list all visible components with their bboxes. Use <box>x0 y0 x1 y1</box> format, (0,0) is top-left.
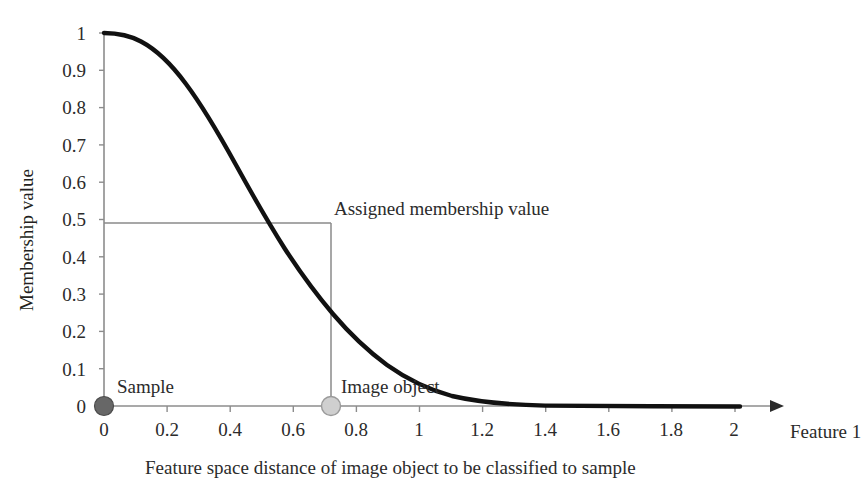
x-tick-label-1-2: 1.2 <box>452 420 512 439</box>
y-tick-label-0-9: 0.9 <box>38 61 86 80</box>
x-tick-label-0: 0 <box>74 420 134 439</box>
y-tick-label-0-4: 0.4 <box>38 248 86 267</box>
y-tick-label-0-8: 0.8 <box>38 98 86 117</box>
annotation-sample: Sample <box>117 377 174 396</box>
x-tick-label-1-8: 1.8 <box>641 420 701 439</box>
x-tick-label-2: 2 <box>704 420 764 439</box>
x-tick-label-0-2: 0.2 <box>137 420 197 439</box>
x-tick-label-0-8: 0.8 <box>326 420 386 439</box>
marker-sample <box>95 397 114 416</box>
x-axis-title: Feature 1 <box>790 422 861 441</box>
y-tick-label-0-7: 0.7 <box>38 136 86 155</box>
y-tick-label-0-3: 0.3 <box>38 285 86 304</box>
marker-image-object <box>322 397 341 416</box>
y-axis-title-text: Membership value <box>16 169 38 311</box>
x-tick-label-0-6: 0.6 <box>263 420 323 439</box>
x-tick-label-1: 1 <box>389 420 449 439</box>
annotation-image-object: Image object <box>341 377 440 396</box>
x-axis-arrow-icon <box>770 400 784 412</box>
y-tick-label-0: 0 <box>38 397 86 416</box>
y-tick-label-0-6: 0.6 <box>38 173 86 192</box>
x-tick-label-1-6: 1.6 <box>578 420 638 439</box>
y-tick-label-0-2: 0.2 <box>38 322 86 341</box>
x-axis-caption: Feature space distance of image object t… <box>145 458 636 477</box>
annotation-assigned-membership-value: Assigned membership value <box>334 199 549 218</box>
x-tick-label-1-4: 1.4 <box>515 420 575 439</box>
figure-membership-function: 1 0.9 0.8 0.7 0.6 0.5 0.4 0.3 0.2 0.1 0 … <box>0 0 862 497</box>
y-axis-title: Membership value <box>14 120 40 360</box>
y-tick-label-0-5: 0.5 <box>38 210 86 229</box>
y-tick-label-1: 1 <box>38 24 86 43</box>
x-tick-label-0-4: 0.4 <box>200 420 260 439</box>
y-tick-label-0-1: 0.1 <box>38 360 86 379</box>
membership-curve <box>104 33 740 407</box>
